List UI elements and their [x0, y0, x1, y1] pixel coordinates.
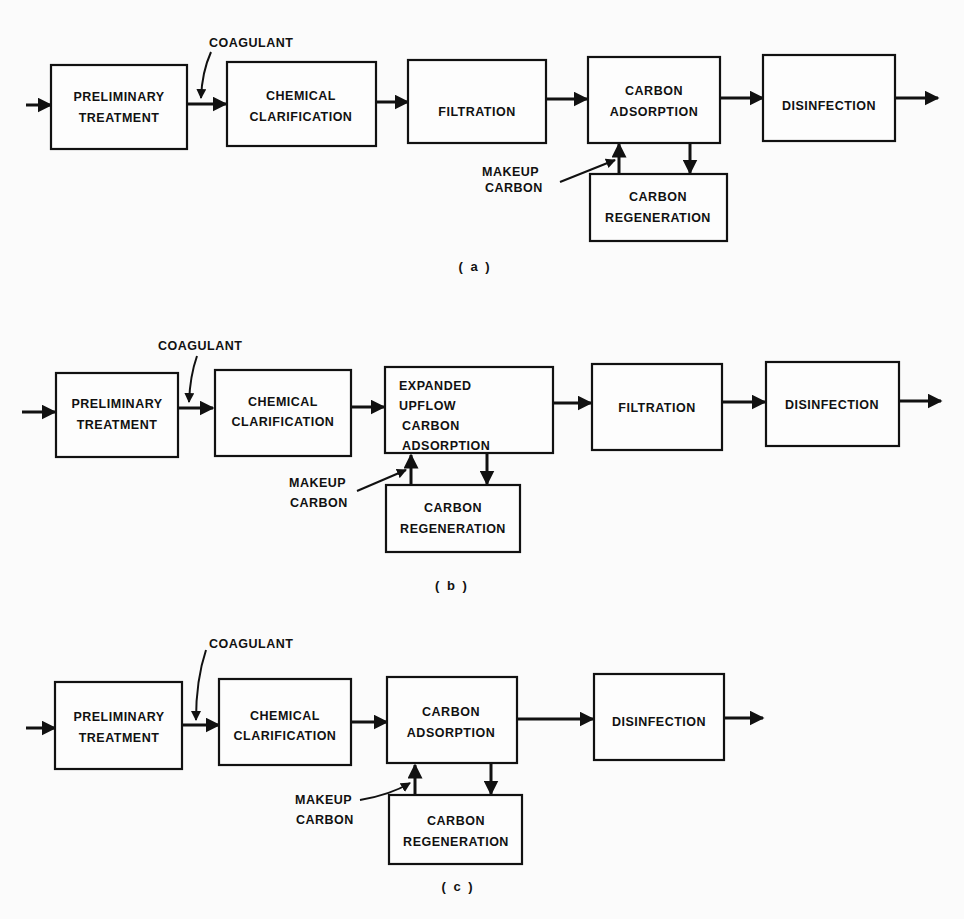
makeup-carbon-label: MAKEUP — [295, 793, 352, 807]
box-label: PRELIMINARY — [71, 397, 162, 411]
makeup-carbon-label: MAKEUP — [289, 476, 346, 490]
box-label: CLARIFICATION — [234, 729, 337, 743]
box-label: CARBON — [424, 501, 482, 515]
caption-b: ( b ) — [435, 578, 469, 593]
box-label: PRELIMINARY — [73, 90, 164, 104]
box-label: CARBON — [422, 705, 480, 719]
box-label: ADSORPTION — [407, 726, 495, 740]
makeup-carbon-label: CARBON — [296, 813, 354, 827]
box-label: ADSORPTION — [402, 439, 490, 453]
diagram-c: PRELIMINARY TREATMENT CHEMICAL CLARIFICA… — [26, 637, 763, 894]
box-carbon-adsorption — [588, 57, 720, 143]
box-label: CHEMICAL — [266, 89, 336, 103]
makeup-carbon-label: CARBON — [290, 496, 348, 510]
box-chemical-clarification — [215, 370, 351, 456]
box-label: CARBON — [402, 419, 460, 433]
box-preliminary-treatment — [55, 682, 182, 769]
caption-c: ( c ) — [441, 879, 474, 894]
diagram-a: PRELIMINARY TREATMENT CHEMICAL CLARIFICA… — [26, 36, 938, 274]
box-filtration — [408, 60, 546, 143]
box-label: CHEMICAL — [250, 709, 320, 723]
box-label: TREATMENT — [77, 418, 158, 432]
box-carbon-regeneration — [590, 174, 727, 241]
coagulant-arrow — [189, 356, 197, 402]
coagulant-arrow — [201, 52, 211, 98]
box-preliminary-treatment — [56, 373, 178, 457]
caption-a: ( a ) — [458, 259, 491, 274]
box-label: TREATMENT — [79, 111, 160, 125]
box-label: ADSORPTION — [610, 105, 698, 119]
box-label: REGENERATION — [605, 211, 711, 225]
box-preliminary-treatment — [51, 65, 187, 149]
box-label: CARBON — [629, 190, 687, 204]
coagulant-label: COAGULANT — [209, 36, 293, 50]
box-label: REGENERATION — [403, 835, 509, 849]
coagulant-label: COAGULANT — [209, 637, 293, 651]
box-label: CARBON — [625, 84, 683, 98]
box-label: CHEMICAL — [248, 395, 318, 409]
makeup-carbon-label: MAKEUP — [482, 165, 539, 179]
box-disinfection — [763, 55, 895, 141]
coagulant-arrow — [196, 650, 206, 720]
makeup-carbon-label: CARBON — [485, 181, 543, 195]
box-label: REGENERATION — [400, 522, 506, 536]
coagulant-label: COAGULANT — [158, 339, 242, 353]
box-label: UPFLOW — [399, 399, 456, 413]
process-flow-diagrams: PRELIMINARY TREATMENT CHEMICAL CLARIFICA… — [0, 0, 964, 919]
box-label: FILTRATION — [438, 105, 515, 119]
box-label: DISINFECTION — [612, 715, 706, 729]
box-label: FILTRATION — [618, 401, 695, 415]
box-carbon-regeneration — [386, 485, 520, 552]
box-label: PRELIMINARY — [73, 710, 164, 724]
box-label: CLARIFICATION — [232, 415, 335, 429]
box-label: DISINFECTION — [785, 398, 879, 412]
box-label: DISINFECTION — [782, 99, 876, 113]
box-label: TREATMENT — [79, 731, 160, 745]
box-chemical-clarification — [227, 62, 376, 146]
box-carbon-adsorption — [387, 677, 517, 763]
box-label: CLARIFICATION — [250, 110, 353, 124]
box-label: CARBON — [427, 814, 485, 828]
diagram-b: PRELIMINARY TREATMENT CHEMICAL CLARIFICA… — [22, 339, 941, 593]
box-carbon-regeneration — [389, 795, 522, 864]
box-label: EXPANDED — [399, 379, 472, 393]
